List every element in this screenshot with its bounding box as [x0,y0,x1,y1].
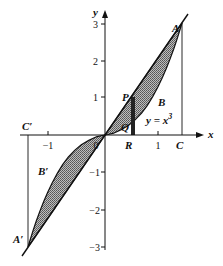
y-tick-label: −2 [89,205,100,216]
point-r-label: R [124,139,132,151]
y-tick-label: 1 [93,92,98,103]
point-p-label: P [122,91,129,103]
point-q-label: Q [121,121,129,133]
y-tick-label: 2 [93,56,98,67]
point-a-label: A [171,22,179,34]
point-c-prime-label: C′ [22,120,32,132]
x-axis-label: x [207,128,214,140]
y-tick-label: 3 [93,19,98,30]
strip-pq [131,97,135,135]
point-b-prime-label: B′ [37,165,48,177]
x-axis-arrow-icon [196,132,204,138]
point-c-label: C [176,139,184,151]
cubic-area-diagram: 3 2 1 −1 −2 −3 −1 0 1 x y A A′ B B′ C C′… [0,0,223,266]
y-axis-arrow-icon [102,10,108,18]
diagram-svg: 3 2 1 −1 −2 −3 −1 0 1 x y A A′ B B′ C C′… [0,0,223,266]
point-b-label: B [157,96,165,108]
y-tick-label: −1 [89,167,100,178]
x-tick-label: 1 [156,140,161,151]
curve-label: y = x3 [144,112,172,126]
origin-label: 0 [94,140,99,151]
point-a-prime-label: A′ [12,233,23,245]
y-tick-label: −3 [89,242,100,253]
x-tick-label: −1 [43,140,54,151]
y-axis-label: y [91,6,98,18]
